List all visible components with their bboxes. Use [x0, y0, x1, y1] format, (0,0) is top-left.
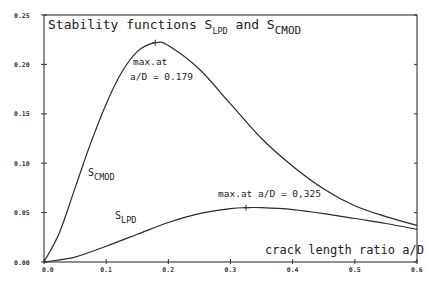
- y-tick-label: 0.15: [14, 110, 30, 118]
- y-axis-ticks: 0.000.050.100.150.200.25: [14, 12, 417, 267]
- x-tick-label: 0.5: [349, 266, 361, 274]
- y-tick-label: 0.20: [14, 61, 30, 69]
- x-axis-label: crack length ratio a/D: [265, 243, 424, 257]
- x-tick-label: 0.0: [42, 266, 54, 274]
- y-tick-label: 0.05: [14, 209, 30, 217]
- lpd-max-annotation: max.at a/D = 0,325: [218, 188, 321, 199]
- s-cmod-curve: [44, 42, 417, 262]
- x-tick-label: 0.4: [287, 266, 299, 274]
- x-tick-label: 0.6: [411, 266, 423, 274]
- y-tick-label: 0.25: [14, 12, 30, 20]
- plot-frame: [44, 15, 417, 262]
- x-tick-label: 0.3: [225, 266, 237, 274]
- s-lpd-label: SLPD: [115, 210, 136, 225]
- chart-title: Stability functions SLPD and SCMOD: [48, 17, 301, 37]
- x-tick-label: 0.2: [162, 266, 174, 274]
- x-tick-label: 0.1: [100, 266, 112, 274]
- y-tick-label: 0.10: [14, 160, 30, 168]
- curves: [44, 40, 417, 262]
- s-cmod-label: SCMOD: [88, 167, 115, 182]
- cmod-max-annotation-line2: a/D = 0.179: [130, 71, 193, 82]
- chart: 0.000.050.100.150.200.25 0.00.10.20.30.4…: [0, 0, 427, 282]
- cmod-max-annotation-line1: max.at: [133, 56, 167, 67]
- y-tick-label: 0.00: [14, 259, 30, 267]
- plot-border: [44, 15, 417, 262]
- x-axis-ticks: 0.00.10.20.30.40.50.6: [42, 259, 423, 274]
